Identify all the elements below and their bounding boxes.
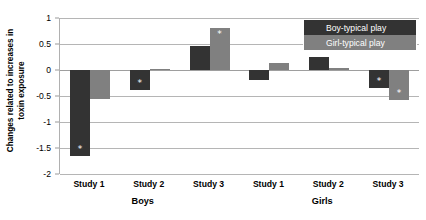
y-axis-title-line1: Changes related to increases in <box>7 28 16 151</box>
bar-boy-typical <box>309 57 329 70</box>
x-axis-tick-label: Study 3 <box>193 179 224 189</box>
bar-boy-typical <box>249 70 269 80</box>
bar-boy-typical <box>70 70 90 156</box>
x-axis-tick-label: Study 1 <box>253 179 284 189</box>
bar-girl-typical <box>90 70 110 99</box>
bar-boy-typical <box>190 46 210 70</box>
bar-boy-typical <box>369 70 389 88</box>
y-axis-tick-label: 1 <box>26 13 55 23</box>
y-axis-tick-label: 0 <box>26 65 55 75</box>
legend-item-label: Boy-typical play <box>326 23 386 33</box>
y-axis-tick-label: -0.5 <box>26 91 55 101</box>
legend-item-label: Girl-typical play <box>326 38 385 48</box>
bar-girl-typical <box>210 28 230 70</box>
y-axis-tick-mark <box>55 96 59 97</box>
bar-girl-typical <box>150 69 170 71</box>
bar-girl-typical <box>389 70 409 100</box>
x-axis-tick-label: Study 2 <box>313 179 344 189</box>
gridline <box>60 122 419 123</box>
y-axis-tick-mark <box>55 44 59 45</box>
x-axis-tick-label: Study 3 <box>373 179 404 189</box>
x-axis-group-label: Boys <box>132 196 154 206</box>
gridline <box>60 148 419 149</box>
legend-item: Girl-typical play <box>304 35 416 50</box>
chart-legend: Boy-typical playGirl-typical play <box>303 19 417 51</box>
x-axis-tick-label: Study 1 <box>73 179 104 189</box>
y-axis-tick-mark <box>55 174 59 175</box>
bar-chart: Changes related to increases in toxin ex… <box>0 0 426 220</box>
x-axis-group-label: Girls <box>312 196 333 206</box>
y-axis-tick-mark <box>55 18 59 19</box>
y-axis-tick-label: -2 <box>26 169 55 179</box>
y-axis-tick-label: -1 <box>26 117 55 127</box>
x-axis-tick-label: Study 2 <box>133 179 164 189</box>
y-axis-tick-mark <box>55 148 59 149</box>
bar-girl-typical <box>269 63 289 70</box>
gridline <box>60 174 419 175</box>
gridline <box>60 96 419 97</box>
y-axis-tick-label: -1.5 <box>26 143 55 153</box>
y-axis-tick-mark <box>55 122 59 123</box>
legend-item: Boy-typical play <box>304 20 416 35</box>
y-axis-tick-mark <box>55 70 59 71</box>
bar-boy-typical <box>130 70 150 90</box>
y-axis-tick-label: 0.5 <box>26 39 55 49</box>
zero-line <box>60 70 419 71</box>
y-axis-tick-labels: 10.50-0.5-1-1.5-2 <box>26 0 55 220</box>
bar-girl-typical <box>329 68 349 70</box>
